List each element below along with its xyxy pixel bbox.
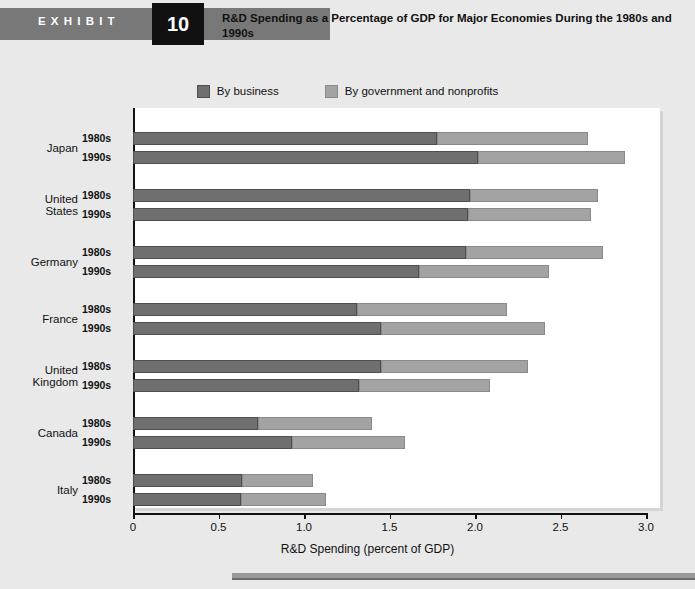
bar-row [133,189,598,202]
bar-segment-business [133,208,468,221]
bar-segment-business [133,265,419,278]
bar-segment-business [133,474,242,487]
period-label: 1990s [82,208,128,220]
bar-row [133,208,591,221]
country-label-line: United [0,364,78,377]
business-swatch [197,85,210,98]
bar-row [133,474,313,487]
bar-segment-government [357,303,507,316]
x-axis-tick-mark [133,513,135,519]
legend-label: By government and nonprofits [345,85,498,97]
country-label-united-states: UnitedStates [0,193,78,218]
period-label: 1990s [82,436,128,448]
bar-segment-government [242,474,312,487]
footer-rule-shadow [232,578,695,580]
bar-segment-government [437,132,587,145]
period-label: 1990s [82,151,128,163]
bar-segment-business [133,189,470,202]
bar-row [133,322,545,335]
country-label-line: Kingdom [0,376,78,389]
country-label-japan: Japan [0,142,78,155]
bar-segment-government [419,265,549,278]
period-label: 1990s [82,265,128,277]
exhibit-title: R&D Spending as a Percentage of GDP for … [222,11,672,41]
period-label: 1980s [82,132,128,144]
bar-segment-business [133,436,292,449]
country-label-line: Italy [0,484,78,497]
period-label: 1990s [82,379,128,391]
bar-segment-government [292,436,405,449]
legend-item-business: By business [197,85,279,98]
period-label: 1980s [82,417,128,429]
bar-segment-government [258,417,373,430]
period-label: 1980s [82,246,128,258]
bar-segment-business [133,151,478,164]
bar-row [133,379,490,392]
bar-row [133,151,625,164]
x-axis-tick-label: 0.5 [211,521,227,533]
x-axis-tick-label: 2.5 [553,521,569,533]
x-axis-tick-mark [561,513,563,519]
bar-row [133,265,549,278]
x-axis-tick-label: 2.0 [467,521,483,533]
x-axis-tick-mark [475,513,477,519]
period-label: 1980s [82,189,128,201]
bar-segment-government [470,189,598,202]
legend-item-government: By government and nonprofits [325,85,498,98]
exhibit-word-label: EXHIBIT [38,15,120,27]
bar-row [133,436,405,449]
period-label: 1980s [82,360,128,372]
country-label-italy: Italy [0,484,78,497]
country-label-line: Japan [0,142,78,155]
bar-segment-government [241,493,327,506]
exhibit-number-label: 10 [152,3,204,45]
x-axis-tick-mark [219,513,221,519]
x-axis-tick-label: 1.0 [296,521,312,533]
bar-segment-government [381,360,528,373]
exhibit-number-box: 10 [152,3,204,45]
bar-row [133,417,372,430]
bar-row [133,246,603,259]
x-axis-tick-label: 3.0 [638,521,654,533]
period-label: 1980s [82,303,128,315]
x-axis-tick-label: 1.5 [382,521,398,533]
bar-segment-government [466,246,603,259]
bar-row [133,132,588,145]
country-label-france: France [0,313,78,326]
bar-segment-business [133,322,381,335]
chart-figure: By businessBy government and nonprofits … [0,60,695,555]
x-axis-tick-label: 0 [130,521,136,533]
bar-segment-government [478,151,625,164]
government-swatch [325,85,338,98]
x-axis-title: R&D Spending (percent of GDP) [0,542,695,556]
country-label-line: Germany [0,256,78,269]
bar-segment-business [133,493,241,506]
bar-segment-business [133,360,381,373]
country-label-line: United [0,193,78,206]
period-label: 1990s [82,322,128,334]
country-label-united-kingdom: UnitedKingdom [0,364,78,389]
country-label-line: States [0,205,78,218]
country-label-line: Canada [0,427,78,440]
bar-segment-business [133,132,437,145]
country-label-germany: Germany [0,256,78,269]
x-axis-title-text: R&D Spending (percent of GDP) [241,542,454,556]
legend-label: By business [217,85,279,97]
chart-legend: By businessBy government and nonprofits [0,80,695,102]
country-label-line: France [0,313,78,326]
x-axis-tick-mark [390,513,392,519]
period-label: 1990s [82,493,128,505]
period-label: 1980s [82,474,128,486]
bar-segment-government [359,379,491,392]
bar-row [133,493,326,506]
bar-segment-business [133,417,258,430]
bar-segment-business [133,379,359,392]
x-axis-tick-mark [304,513,306,519]
country-label-canada: Canada [0,427,78,440]
bar-segment-government [381,322,545,335]
x-axis-tick-mark [646,513,648,519]
bar-row [133,303,507,316]
bar-segment-business [133,303,357,316]
bar-row [133,360,528,373]
bar-segment-government [468,208,591,221]
